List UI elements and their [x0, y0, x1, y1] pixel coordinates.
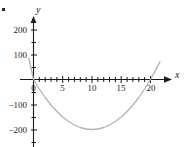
y-tick-label-200: 200	[0, 26, 27, 35]
y-tick-label-neg200: −200	[0, 126, 27, 135]
y-tick-label-neg100: −100	[0, 101, 27, 110]
x-tick-label-15: 15	[113, 84, 129, 93]
x-tick-label-20: 20	[143, 84, 159, 93]
x-tick-label-0: 0	[27, 84, 40, 93]
parabola-curve	[29, 58, 160, 129]
x-axis-arrowhead	[164, 76, 172, 82]
x-axis-label: x	[175, 70, 179, 80]
x-tick-label-5: 5	[56, 84, 69, 93]
y-axis-arrowhead	[31, 16, 37, 23]
x-tick-label-10: 10	[84, 84, 100, 93]
y-axis-label: y	[36, 5, 40, 15]
y-tick-label-100: 100	[0, 51, 27, 60]
parabola-plot	[0, 0, 187, 147]
figure-container: 200 100 −100 −200 0 5 10 15 20 y x	[0, 0, 187, 147]
